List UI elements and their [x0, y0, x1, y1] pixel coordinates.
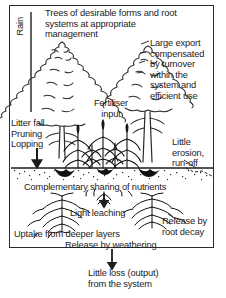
label-uptake-deeper-layers: Uptake from deeper layers [14, 229, 120, 240]
label-release-by-weathering: Release by weathering [65, 240, 156, 251]
label-trees: Trees of desirable forms and root system… [45, 8, 177, 40]
label-litter-fall: Litter fall Pruning Lopping [11, 118, 45, 150]
label-complementary-sharing: Complementary sharing of nutrients [24, 182, 166, 193]
label-fertiliser-input: Fertiliser input [83, 98, 139, 119]
label-release-by-root-decay: Release by root decay [162, 216, 207, 237]
label-rain: Rain [15, 3, 26, 49]
label-erosion: Little erosion, run-off [172, 137, 204, 169]
label-large-export: Large export compensated by turnover wit… [150, 38, 204, 102]
label-little-loss: Little loss (output) from the system [88, 268, 158, 289]
agroforestry-nutrient-cycle-diagram: Rain Trees of desirable forms and root s… [0, 0, 226, 298]
label-light-leaching: Light leaching [70, 208, 125, 219]
